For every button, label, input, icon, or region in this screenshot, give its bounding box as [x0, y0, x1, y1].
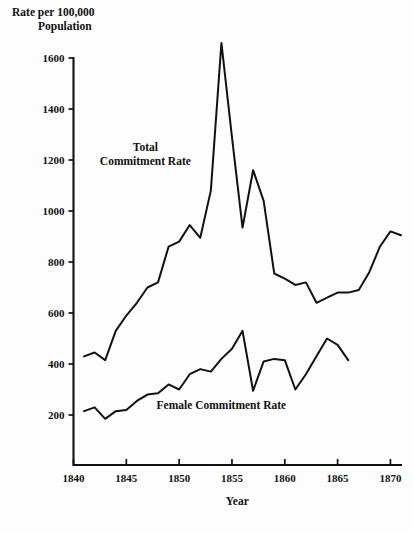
total-series-label: Total Commitment Rate — [100, 141, 191, 167]
y-axis-title-line2: Population — [38, 20, 92, 33]
x-tick-label: 1850 — [168, 472, 191, 484]
y-tick-label: 600 — [48, 307, 65, 319]
commitment-rate-line-chart: Rate per 100,000 Population 200400600800… — [0, 0, 414, 533]
y-tick-label: 1600 — [43, 52, 66, 64]
x-tick-label: 1865 — [327, 472, 350, 484]
total-label-line2: Commitment Rate — [100, 155, 191, 167]
chart-figure: Rate per 100,000 Population 200400600800… — [0, 0, 414, 533]
y-axis-title-line1: Rate per 100,000 — [12, 6, 95, 19]
y-tick-label: 400 — [48, 358, 65, 370]
x-axis-ticks: 1840184518501855186018651870 — [63, 459, 402, 484]
y-tick-label: 1400 — [43, 103, 66, 115]
x-axis-title: Year — [226, 495, 249, 507]
x-tick-label: 1860 — [274, 472, 297, 484]
x-tick-label: 1845 — [115, 472, 138, 484]
y-tick-label: 1000 — [43, 205, 66, 217]
y-tick-label: 800 — [48, 256, 65, 268]
x-tick-label: 1855 — [221, 472, 244, 484]
y-tick-label: 1200 — [43, 154, 66, 166]
y-axis-title-group: Rate per 100,000 Population — [12, 6, 95, 33]
y-axis-ticks: 2004006008001000120014001600 — [43, 52, 74, 421]
female-series-label: Female Commitment Rate — [157, 399, 287, 411]
x-tick-label: 1840 — [63, 472, 86, 484]
total-label-line1: Total — [133, 141, 158, 153]
series-line-total-commitment-rate — [84, 43, 401, 360]
y-tick-label: 200 — [48, 409, 65, 421]
x-tick-label: 1870 — [379, 472, 402, 484]
